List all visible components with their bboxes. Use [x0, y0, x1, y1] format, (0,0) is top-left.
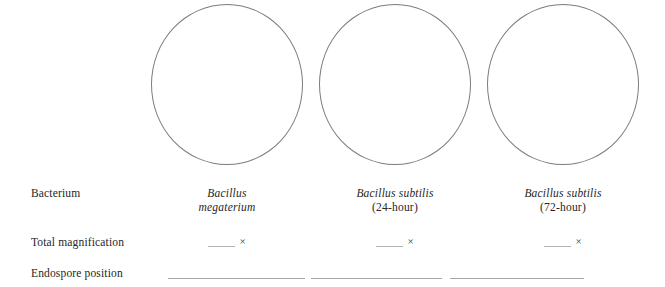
magnification-entry-3: × — [544, 234, 581, 250]
bacterium-name-cell-3: Bacillus subtilis (72-hour) — [487, 186, 639, 214]
multiplication-sign-icon: × — [407, 234, 413, 248]
endospore-position-blank-field-3[interactable] — [450, 278, 584, 279]
magnification-blank-field-2[interactable] — [376, 235, 403, 247]
specimen-drawing-circle-2[interactable] — [319, 4, 471, 165]
strain-age-note: (24-hour) — [319, 200, 471, 214]
magnification-entry-2: × — [376, 234, 413, 250]
endospore-position-blank-field-2[interactable] — [311, 278, 442, 279]
species-name-line1: Bacillus — [151, 186, 303, 200]
row-label-endospore-position: Endospore position — [31, 267, 123, 280]
specimen-drawing-circle-3[interactable] — [487, 4, 639, 165]
row-label-bacterium: Bacterium — [31, 187, 80, 200]
magnification-cell-2: × — [319, 234, 471, 250]
bacterium-name-cell-2: Bacillus subtilis (24-hour) — [319, 186, 471, 214]
magnification-entry-1: × — [208, 234, 245, 250]
multiplication-sign-icon: × — [575, 234, 581, 248]
multiplication-sign-icon: × — [239, 234, 245, 248]
magnification-blank-field-3[interactable] — [544, 235, 571, 247]
specimen-drawing-row — [0, 0, 665, 172]
magnification-blank-field-1[interactable] — [208, 235, 235, 247]
species-name-line1: Bacillus subtilis — [319, 186, 471, 200]
magnification-cell-3: × — [487, 234, 639, 250]
row-label-total-magnification: Total magnification — [31, 236, 124, 249]
endospore-position-blank-field-1[interactable] — [168, 278, 305, 279]
bacterium-name-cell-1: Bacillus megaterium — [151, 186, 303, 214]
species-name-line2: megaterium — [151, 200, 303, 214]
specimen-drawing-circle-1[interactable] — [151, 4, 303, 165]
species-name-line1: Bacillus subtilis — [487, 186, 639, 200]
endospore-stain-worksheet: Bacterium Total magnification Endospore … — [0, 0, 665, 287]
worksheet-table: Bacterium Total magnification Endospore … — [0, 172, 665, 287]
magnification-cell-1: × — [151, 234, 303, 250]
strain-age-note: (72-hour) — [487, 200, 639, 214]
